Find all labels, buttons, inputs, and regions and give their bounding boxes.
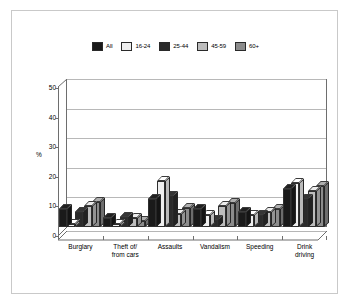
x-axis-tick-mark <box>103 236 104 240</box>
y-axis-tick-label: 10 <box>36 203 56 209</box>
y-axis-tick-mark <box>55 88 58 89</box>
x-axis-labels: BurglaryTheft of/ from carsAssaultsVanda… <box>58 243 327 273</box>
bar-front-face <box>103 218 111 227</box>
bar-front-face <box>59 209 67 227</box>
bar <box>148 199 156 227</box>
bar-side-face <box>173 191 178 227</box>
y-axis-tick-label: 20 <box>36 174 56 180</box>
x-axis-category-label: Drink driving <box>282 243 327 259</box>
bar-side-face <box>156 194 161 227</box>
bar-group <box>193 79 238 236</box>
legend-swatch-icon <box>92 42 103 51</box>
y-axis-tick-label: 50 <box>36 85 56 91</box>
legend-item-all: All <box>92 42 112 51</box>
bar <box>59 209 67 227</box>
x-axis-tick-mark <box>237 236 238 240</box>
bar-group <box>237 79 282 236</box>
legend-swatch-icon <box>159 42 170 51</box>
bar-group <box>282 79 327 236</box>
legend-item-25-44: 25-44 <box>159 42 188 51</box>
chart-legend: All16-2425-4445-5960+ <box>12 42 339 51</box>
y-axis-tick-label: 30 <box>36 144 56 150</box>
bar-series-container <box>58 79 327 236</box>
plot-area: 01020304050 <box>58 79 327 235</box>
x-axis-tick-mark <box>282 236 283 240</box>
x-axis-category-label: Vandalism <box>193 243 238 251</box>
bar <box>193 209 201 227</box>
legend-item-label: 16-24 <box>135 42 150 51</box>
legend-item-label: 60+ <box>249 42 259 51</box>
x-axis-category-label: Speeding <box>237 243 282 251</box>
x-axis-tick-mark <box>193 236 194 240</box>
bar-front-face <box>148 199 156 227</box>
bar-front-face <box>283 189 291 227</box>
bar-side-face <box>324 181 329 227</box>
y-axis-tick-mark <box>55 147 58 148</box>
bar <box>283 189 291 227</box>
bar-front-face <box>238 212 246 227</box>
y-axis-tick-mark <box>55 177 58 178</box>
bar-front-face <box>193 209 201 227</box>
chart-frame: All16-2425-4445-5960+ 01020304050 % Burg… <box>11 10 338 294</box>
bar-side-face <box>291 184 296 227</box>
x-axis-tick-mark <box>148 236 149 240</box>
bar-side-face <box>165 177 170 227</box>
legend-item-16-24: 16-24 <box>121 42 150 51</box>
y-axis-tick-label: 0 <box>36 233 56 239</box>
x-axis-category-label: Burglary <box>58 243 103 251</box>
y-axis-tick-mark <box>55 118 58 119</box>
bar-side-face <box>308 194 313 227</box>
bar <box>103 218 111 227</box>
legend-item-label: 25-44 <box>173 42 188 51</box>
x-axis-category-label: Theft of/ from cars <box>103 243 148 259</box>
bar-side-face <box>299 178 304 227</box>
bar-side-face <box>316 187 321 227</box>
bar-group <box>58 79 103 236</box>
x-axis-tick-mark <box>58 236 59 240</box>
y-axis-tick-label: 40 <box>36 115 56 121</box>
bar-group <box>148 79 193 236</box>
legend-item-label: All <box>106 42 112 51</box>
legend-swatch-icon <box>121 42 132 51</box>
bar <box>238 212 246 227</box>
legend-item-45-59: 45-59 <box>197 42 226 51</box>
x-axis-tick-mark <box>326 236 327 240</box>
legend-item-label: 45-59 <box>211 42 226 51</box>
bar-group <box>103 79 148 236</box>
y-axis-tick-mark <box>55 206 58 207</box>
legend-swatch-icon <box>235 42 246 51</box>
x-axis-category-label: Assaults <box>148 243 193 251</box>
legend-swatch-icon <box>197 42 208 51</box>
legend-item-60-: 60+ <box>235 42 259 51</box>
y-axis-title: % <box>36 151 42 158</box>
